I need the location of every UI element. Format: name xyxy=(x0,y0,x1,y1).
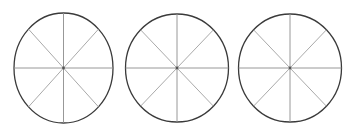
fraction-circles-figure xyxy=(0,0,355,140)
circle-center-dot-3 xyxy=(289,67,292,70)
circle-center-dot-1 xyxy=(62,67,65,70)
circle-group-2 xyxy=(126,14,229,122)
circle-group-1 xyxy=(14,13,113,123)
circle-center-dot-2 xyxy=(176,67,179,70)
circles-diagram-svg xyxy=(0,0,355,140)
circle-group-3 xyxy=(239,14,342,122)
